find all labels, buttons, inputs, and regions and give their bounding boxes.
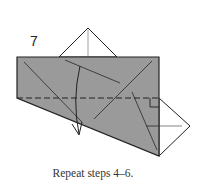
right-flap bbox=[159, 98, 190, 156]
caption: Repeat steps 4–6. bbox=[0, 167, 186, 179]
step-number: 7 bbox=[30, 33, 38, 49]
paper-body bbox=[17, 57, 159, 156]
origami-diagram bbox=[0, 0, 206, 190]
